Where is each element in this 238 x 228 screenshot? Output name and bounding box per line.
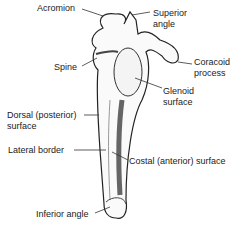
label-acromion: Acromion [37,3,75,13]
label-dorsal-1: Dorsal (posterior) [7,110,77,120]
label-dorsal-2: surface [7,121,37,131]
label-spine: Spine [54,62,77,72]
label-inferior-angle: Inferior angle [36,209,89,219]
label-superior-angle-1: Superior [153,8,187,18]
label-coracoid-1: Coracoid [194,57,230,67]
label-coracoid-2: process [194,68,226,78]
label-glenoid-2: surface [163,97,193,107]
label-superior-angle-2: angle [153,19,175,29]
label-lateral-border: Lateral border [8,145,64,155]
label-costal-surface: Costal (anterior) surface [129,156,226,166]
label-glenoid-1: Glenoid [163,86,194,96]
